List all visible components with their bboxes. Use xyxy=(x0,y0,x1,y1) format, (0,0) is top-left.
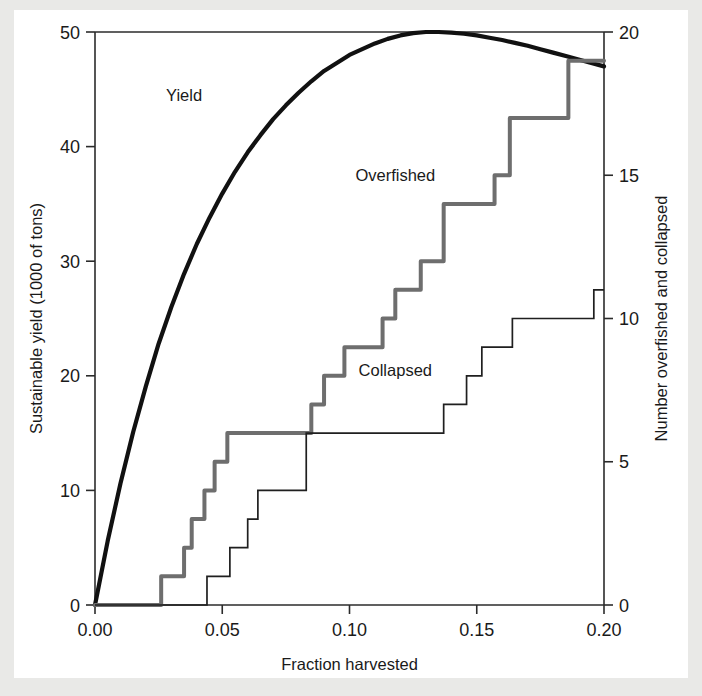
y-right-tick-label: 5 xyxy=(619,452,629,472)
chart-plot: 01020304050 05101520 0.000.050.100.150.2… xyxy=(0,0,702,696)
annotation-layer: YieldOverfishedCollapsed xyxy=(166,86,435,379)
series-label-yield: Yield xyxy=(166,86,202,104)
x-axis-ticks: 0.000.050.100.150.20 xyxy=(77,605,621,640)
y-axis-right-ticks: 05101520 xyxy=(604,23,639,616)
y-left-tick-label: 10 xyxy=(60,481,80,501)
series-line-collapsed xyxy=(95,290,604,605)
x-tick-label: 0.00 xyxy=(77,620,112,640)
x-tick-label: 0.10 xyxy=(332,620,367,640)
y-axis-right-title: Number overfished and collapsed xyxy=(652,196,670,442)
series-layer xyxy=(95,32,604,605)
x-tick-label: 0.15 xyxy=(459,620,494,640)
y-left-tick-label: 50 xyxy=(60,23,80,43)
x-tick-label: 0.20 xyxy=(586,620,621,640)
y-right-tick-label: 20 xyxy=(619,23,639,43)
y-right-tick-label: 0 xyxy=(619,596,629,616)
series-line-overfished xyxy=(95,61,604,605)
x-tick-label: 0.05 xyxy=(205,620,240,640)
y-axis-left-ticks: 01020304050 xyxy=(60,23,95,616)
series-label-overfished: Overfished xyxy=(355,166,435,184)
series-label-collapsed: Collapsed xyxy=(359,361,432,379)
y-right-tick-label: 15 xyxy=(619,166,639,186)
y-left-tick-label: 20 xyxy=(60,366,80,386)
x-axis-title: Fraction harvested xyxy=(281,655,418,673)
y-left-tick-label: 40 xyxy=(60,137,80,157)
figure-canvas: 01020304050 05101520 0.000.050.100.150.2… xyxy=(0,0,702,696)
y-axis-left-title: Sustainable yield (1000 of tons) xyxy=(27,203,45,434)
y-left-tick-label: 0 xyxy=(70,596,80,616)
y-right-tick-label: 10 xyxy=(619,309,639,329)
y-left-tick-label: 30 xyxy=(60,252,80,272)
